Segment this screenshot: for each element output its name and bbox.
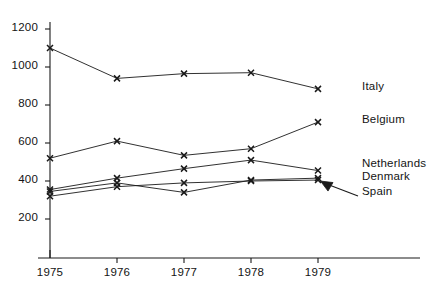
x-axis-tick-label: 1978 [231, 266, 271, 278]
data-point-marker [315, 86, 321, 92]
series-denmark [47, 175, 321, 195]
series-label-spain: Spain [362, 185, 392, 197]
line-chart: 20040060080010001200 1975197619771978197… [0, 0, 435, 286]
chart-annotations [321, 181, 359, 196]
y-axis-tick-label: 1200 [4, 21, 38, 33]
series-label-italy: Italy [362, 80, 384, 92]
y-axis-tick-label: 200 [4, 211, 38, 223]
x-axis-tick-label: 1977 [164, 266, 204, 278]
series-label-netherlands: Netherlands [362, 157, 426, 169]
series-belgium [47, 119, 321, 161]
series-label-belgium: Belgium [362, 113, 405, 125]
chart-axes [38, 22, 420, 263]
x-axis-tick-label: 1979 [298, 266, 338, 278]
annotation-arrow-head [321, 181, 334, 191]
series-italy [47, 45, 321, 92]
data-point-marker [315, 119, 321, 125]
y-axis-tick-label: 800 [4, 97, 38, 109]
series-label-denmark: Denmark [362, 170, 410, 182]
y-axis-tick-label: 600 [4, 135, 38, 147]
series-line [50, 160, 318, 189]
series-line [50, 48, 318, 89]
y-axis-tick-label: 400 [4, 173, 38, 185]
y-axis-tick-label: 1000 [4, 59, 38, 71]
series-line [50, 122, 318, 158]
x-axis-tick-label: 1975 [30, 266, 70, 278]
series-spain [47, 177, 321, 199]
chart-series-group [47, 45, 321, 199]
x-axis-tick-label: 1976 [97, 266, 137, 278]
chart-plot-area [0, 0, 435, 286]
series-netherlands [47, 157, 321, 192]
